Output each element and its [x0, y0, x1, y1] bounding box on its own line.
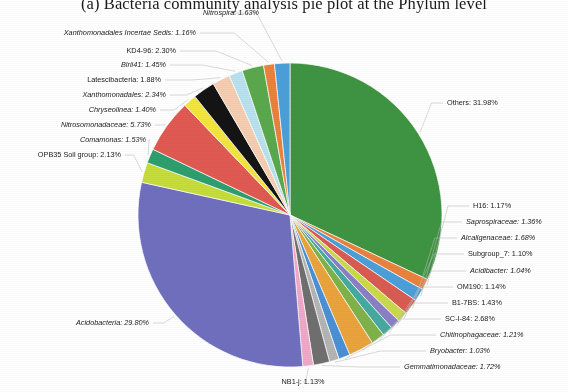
pie-label-nitrosomonadaceae: Nitrosomonadaceae: 5.73%	[61, 121, 151, 128]
pie-label-comamonas: Comamonas: 1.53%	[80, 136, 146, 143]
leader-line	[148, 140, 150, 155]
pie-label-sci84: SC-I-84: 2.68%	[445, 315, 495, 322]
pie-label-nb1j: NB1-j: 1.13%	[282, 378, 325, 385]
pie-label-acidibacter: Acidibacter: 1.04%	[470, 267, 531, 274]
pie-label-blrii41: Blrii41: 1.45%	[121, 61, 166, 68]
pie-label-xanthomonadales: Xanthomonadales: 2.34%	[82, 91, 166, 98]
pie-label-nitrospira: Nitrospira: 1.63%	[203, 9, 259, 16]
pie-label-bryobacter: Bryobacter: 1.03%	[430, 347, 490, 354]
pie-label-others: Others: 31.98%	[447, 99, 498, 106]
pie-label-b17bs: B1-7BS: 1.43%	[452, 299, 502, 306]
pie-label-chryseolinea: Chryseolinea: 1.40%	[89, 106, 156, 113]
leader-line	[170, 65, 235, 71]
leader-line	[420, 103, 443, 132]
pie-label-xanth_incertae: Xanthomonadales Incertae Sedis: 1.16%	[64, 29, 196, 36]
pie-label-alcaligenaceae: Alcaligenaceae: 1.68%	[461, 234, 535, 241]
pie-label-saprospiraceae: Saprospiraceae: 1.36%	[466, 218, 542, 225]
figure-panel: (a) Bacteria community analysis pie plot…	[0, 0, 568, 392]
pie-label-kd4_96: KD4-96: 2.30%	[127, 47, 177, 54]
pie-label-gemmatimonadaceae: Gemmatimonadaceae: 1.72%	[404, 363, 501, 370]
leader-line	[165, 78, 220, 80]
leader-line	[200, 33, 269, 63]
pie-label-chitinophagaceae: Chitinophagaceae: 1.21%	[440, 331, 524, 338]
pie-label-om190: OM190: 1.14%	[457, 283, 506, 290]
pie-label-latescibacteria: Latescibacteria: 1.88%	[87, 76, 161, 83]
leader-line	[322, 366, 400, 367]
pie-label-acidobacteria: Acidobacteria: 29.80%	[76, 319, 149, 326]
leader-line	[125, 155, 142, 172]
leader-line	[153, 316, 174, 323]
pie-label-subgroup7: Subgroup_7: 1.10%	[468, 250, 533, 257]
pie-label-opb35: OPB35 Soil group: 2.13%	[38, 151, 121, 158]
pie-label-h16: H16: 1.17%	[473, 202, 511, 209]
leader-line	[180, 51, 252, 66]
